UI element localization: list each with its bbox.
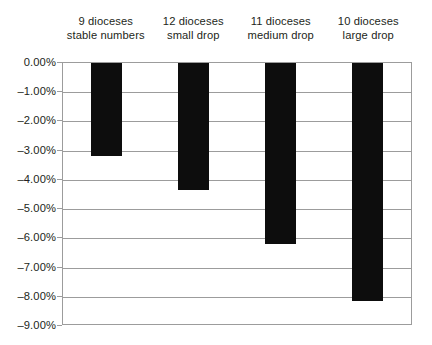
category-label-2-line-2: medium drop [237,28,325,42]
y-tick-label-2: –2.00% [0,114,56,126]
y-tick-label-7: –7.00% [0,261,56,273]
category-label-0-line-1: 9 dioceses [62,14,150,28]
bar-slot-0 [63,63,150,324]
y-tick-mark-9 [57,325,62,326]
y-axis: 0.00%–1.00%–2.00%–3.00%–4.00%–5.00%–6.00… [0,62,56,325]
bars-layer [63,63,411,324]
bar-chart: 9 dioceses stable numbers 12 dioceses sm… [0,0,432,345]
y-tick-label-3: –3.00% [0,144,56,156]
y-tick-label-4: –4.00% [0,173,56,185]
category-label-1: 12 dioceses small drop [150,14,238,58]
bar-slot-1 [150,63,237,324]
bar-3[interactable] [352,63,383,301]
y-tick-label-9: –9.00% [0,319,56,331]
category-label-1-line-2: small drop [150,28,238,42]
plot-area [62,62,412,325]
category-label-0-line-2: stable numbers [62,28,150,42]
category-label-row: 9 dioceses stable numbers 12 dioceses sm… [62,14,412,58]
bar-2[interactable] [265,63,296,244]
y-tick-label-0: 0.00% [0,56,56,68]
y-tick-label-6: –6.00% [0,231,56,243]
bar-1[interactable] [178,63,209,190]
y-tick-label-8: –8.00% [0,290,56,302]
category-label-3-line-2: large drop [325,28,413,42]
category-label-0: 9 dioceses stable numbers [62,14,150,58]
bar-slot-3 [324,63,411,324]
y-tick-label-5: –5.00% [0,202,56,214]
category-label-3: 10 dioceses large drop [325,14,413,58]
category-label-1-line-1: 12 dioceses [150,14,238,28]
category-label-3-line-1: 10 dioceses [325,14,413,28]
bar-slot-2 [237,63,324,324]
y-tick-label-1: –1.00% [0,85,56,97]
category-label-2: 11 dioceses medium drop [237,14,325,58]
bar-0[interactable] [91,63,122,156]
category-label-2-line-1: 11 dioceses [237,14,325,28]
